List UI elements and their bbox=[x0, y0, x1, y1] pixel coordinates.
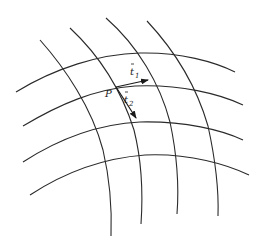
t1-subscript: 1 bbox=[135, 72, 139, 80]
curvilinear-grid-diagram: P t 1 t 2 bbox=[0, 0, 259, 250]
curve-u1 bbox=[16, 53, 235, 92]
label-t2: t 2 bbox=[124, 92, 134, 108]
t2-subscript: 2 bbox=[128, 100, 134, 108]
coordinate-curves-family-2 bbox=[40, 18, 218, 236]
label-t1: t 1 bbox=[130, 64, 139, 80]
point-p-label: P bbox=[104, 88, 112, 99]
curve-v1 bbox=[40, 40, 111, 236]
curve-v4 bbox=[147, 21, 218, 216]
